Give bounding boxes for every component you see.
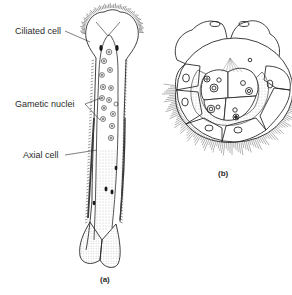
cilium (83, 25, 86, 26)
cilium (86, 198, 89, 199)
panel-b-organism (162, 21, 292, 156)
cilium (85, 219, 88, 220)
panel-a-organism (80, 3, 144, 267)
cilium (91, 84, 94, 85)
cilium (117, 5, 118, 8)
cilium (98, 7, 100, 11)
cilium (164, 100, 177, 102)
illustration (0, 0, 292, 295)
cilium (118, 5, 119, 9)
cilium (91, 75, 94, 76)
cilium (88, 147, 91, 148)
cilium (120, 222, 123, 223)
cilium (86, 17, 89, 19)
figure: Ciliated cell Gametic nuclei Axial cell … (0, 0, 292, 295)
cilium (138, 22, 142, 23)
cilium (139, 27, 143, 28)
cilium (84, 21, 87, 22)
cilium (138, 23, 143, 24)
cilium (88, 156, 91, 157)
cilium (87, 171, 90, 172)
cilium (88, 144, 91, 145)
label-gametic-nuclei: Gametic nuclei (15, 100, 75, 109)
cilium (91, 78, 94, 79)
cilium (86, 186, 89, 187)
cilium (237, 142, 238, 152)
cilium (90, 105, 93, 106)
cilium (87, 177, 90, 178)
cilium (84, 19, 88, 21)
cilium (87, 168, 90, 169)
cilium (123, 6, 125, 10)
cilium (125, 8, 126, 11)
cilium (221, 141, 223, 153)
cilium (92, 60, 95, 61)
cilium (107, 5, 108, 8)
cilium (248, 140, 252, 152)
cilium (90, 93, 93, 94)
cilium (91, 81, 94, 82)
cilium (105, 4, 106, 9)
cilium (87, 183, 90, 184)
cilium (129, 11, 131, 13)
cilium (90, 99, 93, 100)
cilium (168, 88, 176, 89)
cilium (82, 24, 86, 25)
cilium (241, 141, 243, 155)
cilium (89, 114, 92, 115)
cilium (80, 26, 85, 27)
cilium (103, 5, 104, 9)
cilium (87, 165, 90, 166)
cilium (164, 84, 177, 86)
cilium (86, 189, 89, 190)
caption-panel-a: (a) (100, 276, 110, 284)
caption-panel-b: (b) (218, 170, 228, 178)
cilium (86, 201, 89, 202)
cilium (135, 17, 138, 19)
cilium (90, 96, 93, 97)
leader-lines-a (65, 31, 101, 155)
cilium (87, 180, 90, 181)
cilium (89, 132, 92, 133)
cilium (127, 8, 129, 11)
cilium (89, 117, 92, 118)
cilium (254, 138, 259, 149)
cilium (88, 141, 91, 142)
inner-cell-1 (201, 70, 228, 100)
cilium (87, 174, 90, 175)
cilium (97, 8, 98, 11)
head-top (104, 10, 120, 12)
cilium (136, 18, 140, 20)
cilium (120, 4, 121, 9)
cilium (88, 153, 91, 154)
cilium (242, 141, 243, 148)
cilium (244, 141, 246, 150)
cilium (89, 129, 92, 130)
cilium (89, 120, 92, 121)
cilium (137, 21, 140, 22)
cilium (91, 66, 94, 67)
cilium (86, 192, 89, 193)
cap-lines (96, 22, 120, 36)
cilium (223, 142, 225, 156)
label-axial-cell: Axial cell (23, 151, 59, 160)
cilium (139, 25, 142, 26)
cilium (236, 142, 237, 150)
gametic-nuclei (100, 49, 119, 140)
cilium (81, 22, 86, 23)
cilium (89, 135, 92, 136)
label-ciliated-cell: Ciliated cell (15, 27, 61, 36)
cilium (90, 87, 93, 88)
cilium (90, 90, 93, 91)
cilium (85, 222, 88, 223)
cilium (133, 14, 135, 16)
cilium (87, 162, 90, 163)
cilium (88, 138, 91, 139)
cilium (88, 159, 91, 160)
cilium (166, 98, 177, 99)
cilium (89, 14, 91, 16)
cilium (91, 72, 94, 73)
cilium (239, 142, 241, 154)
cilium (93, 11, 95, 13)
cilium (228, 142, 229, 151)
